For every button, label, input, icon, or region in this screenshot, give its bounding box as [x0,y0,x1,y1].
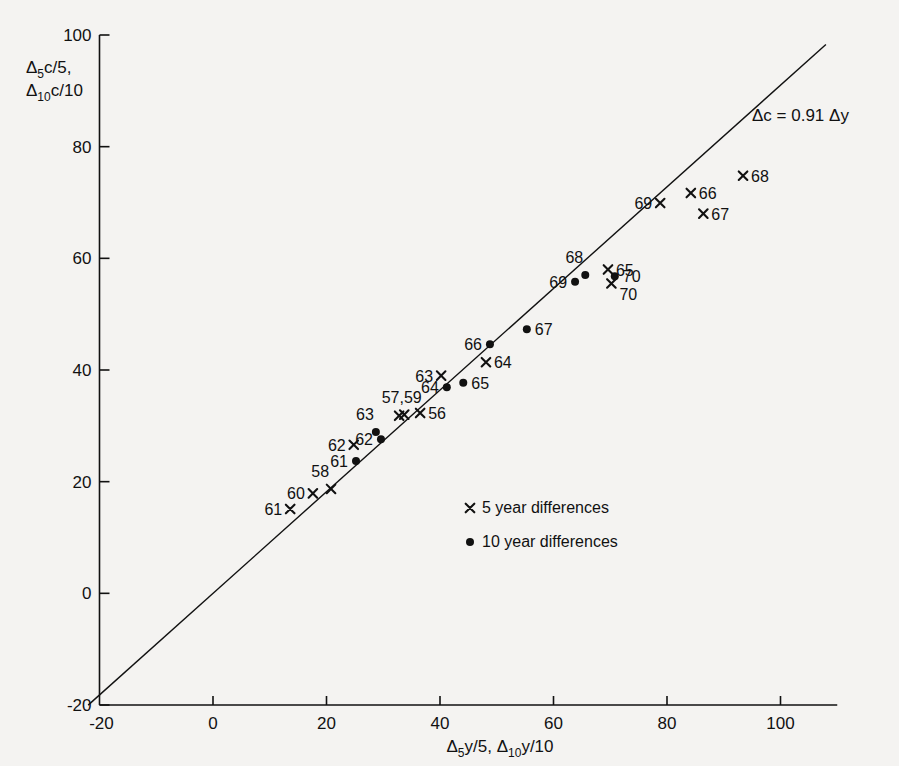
x-tick-label: 20 [317,714,336,733]
point-label-x-70: 70 [619,286,637,303]
x-axis-title-rest1: y/5, [465,737,497,756]
x-axis-title-sub2: 10 [508,746,522,760]
x-tick-label: 60 [544,714,563,733]
y-tick-label: 40 [73,361,92,380]
equation-annotation: Δc = 0.91 Δy [752,106,849,125]
point-label-x-61: 61 [264,501,282,518]
marker-dot-66 [486,340,494,348]
chart-canvas: 020406080100-20-20020406080100 616058625… [0,0,899,766]
y-axis-title-delta: Δ [26,58,37,77]
x-tick-label: 80 [658,714,677,733]
marker-dot-69 [571,278,579,286]
point-label-dot-62: 62 [355,431,373,448]
point-label-x-69: 69 [634,195,652,212]
y-axis-title-rest: c/5, [44,58,71,77]
x-axis-title-delta2: Δ [497,737,508,756]
point-label-x-66: 66 [699,185,717,202]
y-axis-title2-delta: Δ [26,81,37,100]
marker-dot-67 [523,325,531,333]
x-axis-title-rest2: y/10 [521,737,553,756]
x-tick-label: 40 [431,714,450,733]
x-tick-label: -20 [89,714,114,733]
point-label-x-57-59: 57,59 [382,389,422,406]
point-label-dot-63: 63 [356,406,374,423]
point-label-dot-66: 66 [464,336,482,353]
marker-dot-64 [443,383,451,391]
marker-dot-63 [372,428,380,436]
marker-dot-68 [581,271,589,279]
marker-dot-65 [459,379,467,387]
point-label-dot-70: 70 [623,268,641,285]
marker-dot-62 [377,435,385,443]
point-label-dot-65: 65 [471,375,489,392]
point-label-x-60: 60 [287,485,305,502]
y-tick-label: 60 [73,249,92,268]
point-label-x-58: 58 [311,463,329,480]
y-tick-label: -20 [67,696,92,715]
y-tick-label: 0 [82,584,91,603]
point-label-dot-67: 67 [535,321,553,338]
point-label-x-64: 64 [494,354,512,371]
y-axis-title2-sub: 10 [37,90,51,104]
point-label-x-62: 62 [328,437,346,454]
marker-dot-61 [352,457,360,465]
point-label-dot-64: 64 [421,379,439,396]
y-tick-label: 20 [73,473,92,492]
point-label-dot-69: 69 [549,274,567,291]
point-label-x-68: 68 [751,168,769,185]
point-label-dot-61: 61 [330,453,348,470]
y-tick-label: 80 [73,138,92,157]
point-label-x-67: 67 [711,206,729,223]
legend-marker-dot [466,538,474,546]
legend-label-10-year: 10 year differences [482,533,618,550]
x-tick-label: 100 [766,714,794,733]
x-tick-label: 0 [208,714,217,733]
scatter-plot-figure: 020406080100-20-20020406080100 616058625… [0,0,899,766]
fit-equation-label: Δc = 0.91 Δy [752,106,849,125]
point-label-dot-68: 68 [565,249,583,266]
x-axis-title-delta1: Δ [446,737,457,756]
y-axis-title2-rest: c/10 [51,81,83,100]
legend-label-5-year: 5 year differences [482,499,609,516]
y-tick-label: 100 [63,26,91,45]
point-label-x-56: 56 [428,405,446,422]
